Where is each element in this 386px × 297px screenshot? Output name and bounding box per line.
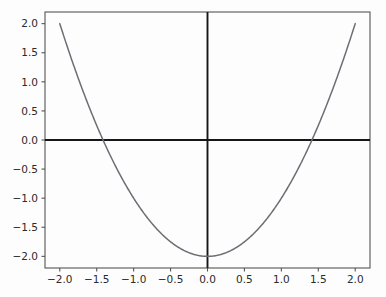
y-tick-label: −1.0 — [13, 192, 39, 204]
x-tick-label: −0.5 — [158, 273, 184, 285]
y-tick-label: −0.5 — [13, 163, 39, 175]
y-tick-label: 1.5 — [21, 46, 38, 58]
x-tick-label: 2.0 — [347, 273, 364, 285]
y-tick-label: 0.0 — [21, 134, 38, 146]
x-tick-label: 0.5 — [236, 273, 253, 285]
parabola-plot: −2.0−1.5−1.0−0.50.00.51.01.52.0 2.01.51.… — [0, 0, 386, 297]
y-tick-label: −1.5 — [13, 221, 39, 233]
x-tick-label: 0.0 — [199, 273, 216, 285]
chart-figure: −2.0−1.5−1.0−0.50.00.51.01.52.0 2.01.51.… — [0, 0, 386, 297]
x-axis-tick-labels: −2.0−1.5−1.0−0.50.00.51.01.52.0 — [47, 273, 364, 285]
y-tick-label: 0.5 — [21, 105, 38, 117]
x-tick-label: 1.5 — [310, 273, 327, 285]
x-tick-label: 1.0 — [273, 273, 290, 285]
x-tick-label: −1.0 — [121, 273, 147, 285]
x-tick-label: −1.5 — [84, 273, 110, 285]
y-tick-label: −2.0 — [13, 250, 39, 262]
y-tick-label: 2.0 — [21, 17, 38, 29]
x-tick-label: −2.0 — [47, 273, 73, 285]
y-tick-label: 1.0 — [21, 76, 38, 88]
